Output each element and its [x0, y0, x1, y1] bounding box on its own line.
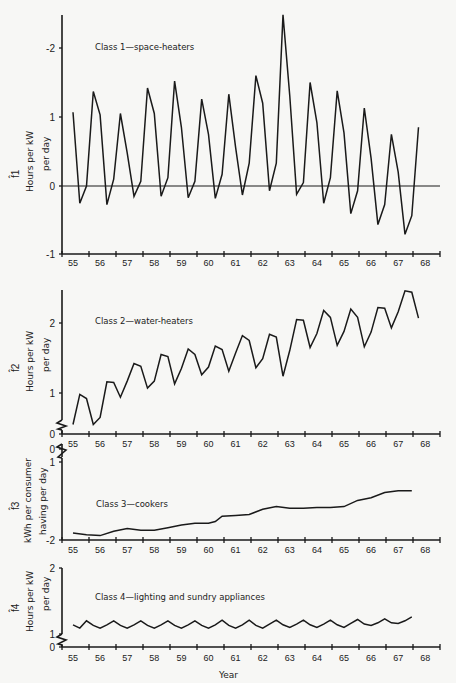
axis-break-icon — [57, 634, 66, 645]
x-tick-label: 56 — [95, 439, 105, 449]
x-tick-label: 61 — [231, 653, 241, 663]
x-tick-label: 68 — [420, 545, 430, 555]
x-tick-label: 68 — [420, 439, 430, 449]
y-tick-label: 1 — [49, 629, 55, 640]
y-symbol: f̂3 — [8, 501, 21, 510]
y-tick-label: 1 — [49, 112, 55, 123]
y-tick-label: 0 — [49, 181, 55, 192]
x-tick-label: 65 — [339, 258, 349, 268]
x-tick-label: 63 — [285, 258, 295, 268]
x-tick-label: 64 — [312, 653, 322, 663]
x-tick-label: 67 — [393, 653, 403, 663]
y-axis-title-line1: Hours per kW — [25, 131, 35, 192]
y-symbol: f̂2 — [8, 363, 21, 372]
x-tick-label: 64 — [312, 258, 322, 268]
x-tick-label: 55 — [68, 653, 78, 663]
y-tick-label: 0 — [49, 444, 55, 455]
x-tick-label: 67 — [393, 545, 403, 555]
chart-class-3: f̂3 kWh per consumer having per day Clas… — [8, 444, 440, 556]
y-tick-label: 2 — [49, 318, 55, 329]
x-tick-label: 62 — [258, 545, 268, 555]
x-tick-label: 64 — [312, 439, 322, 449]
x-tick-label: 59 — [176, 258, 186, 268]
x-tick-label: 65 — [339, 439, 349, 449]
x-tick-label: 60 — [203, 258, 213, 268]
chart-title: Class 3—cookers — [96, 499, 168, 509]
chart-title: Class 2—water-heaters — [95, 316, 194, 326]
y-tick-label: 1 — [49, 457, 55, 468]
x-tick-label: 59 — [176, 545, 186, 555]
x-tick-label: 61 — [231, 258, 241, 268]
x-tick-label: 64 — [312, 545, 322, 555]
x-tick-label: 58 — [149, 653, 159, 663]
y-axis-title-line2: having per day — [38, 467, 48, 535]
figure: f̂1 Hours per kW per day Class 1—space-h… — [0, 0, 456, 683]
y-symbol: f̂4 — [8, 603, 21, 612]
x-tick-label: 66 — [366, 439, 376, 449]
x-tick-label: 57 — [122, 545, 132, 555]
y-tick-label: 0 — [49, 642, 55, 653]
chart-class-4: f̂4 Hours per kW per day Class 4—lightin… — [8, 563, 440, 664]
x-tick-label: 55 — [68, 439, 78, 449]
y-tick-label: -2 — [46, 43, 55, 54]
x-tick-label: 68 — [420, 653, 430, 663]
x-tick-label: 65 — [339, 653, 349, 663]
x-tick-label: 58 — [149, 439, 159, 449]
y-tick-label: -2 — [46, 535, 55, 546]
x-tick-label: 61 — [231, 439, 241, 449]
y-axis-title-line2: per day — [41, 337, 51, 372]
x-tick-label: 57 — [122, 653, 132, 663]
x-tick-label: 63 — [285, 545, 295, 555]
x-axis-title: Year — [218, 670, 238, 680]
y-symbol: f̂1 — [8, 169, 21, 178]
x-tick-label: 67 — [393, 258, 403, 268]
x-tick-label: 66 — [366, 653, 376, 663]
x-tick-label: 57 — [122, 439, 132, 449]
x-tick-label: 56 — [95, 258, 105, 268]
chart-title: Class 4—lighting and sundry appliances — [95, 592, 265, 602]
data-series-line — [73, 291, 419, 425]
y-axis-title-line1: kWh per consumer — [23, 458, 33, 543]
x-tick-label: 66 — [366, 545, 376, 555]
x-tick-label: 67 — [393, 439, 403, 449]
y-tick-label: 1 — [49, 388, 55, 399]
x-tick-label: 59 — [176, 439, 186, 449]
data-series-line — [73, 617, 412, 628]
y-axis-title-line1: Hours per kW — [25, 331, 35, 392]
x-tick-label: 55 — [68, 258, 78, 268]
chart-class-1: f̂1 Hours per kW per day Class 1—space-h… — [8, 15, 440, 268]
data-series-line — [73, 491, 412, 536]
x-tick-label: 58 — [149, 545, 159, 555]
x-tick-label: 61 — [231, 545, 241, 555]
x-tick-label: 57 — [122, 258, 132, 268]
axis-break-icon — [57, 420, 66, 430]
x-tick-label: 55 — [68, 545, 78, 555]
y-axis-title-line1: Hours per kW — [25, 571, 35, 632]
y-tick-label: 2 — [49, 563, 55, 574]
x-tick-label: 62 — [258, 258, 268, 268]
x-tick-label: 56 — [95, 545, 105, 555]
y-axis-title-line2: per day — [41, 136, 51, 171]
y-tick-label: -1 — [46, 249, 55, 260]
x-tick-label: 60 — [203, 545, 213, 555]
y-axis-title-line2: per day — [41, 576, 51, 611]
x-tick-label: 56 — [95, 653, 105, 663]
x-tick-label: 60 — [203, 439, 213, 449]
x-tick-label: 62 — [258, 653, 268, 663]
x-tick-label: 58 — [149, 258, 159, 268]
x-tick-label: 60 — [203, 653, 213, 663]
chart-title: Class 1—space-heaters — [95, 42, 195, 52]
x-tick-label: 63 — [285, 439, 295, 449]
x-tick-label: 59 — [176, 653, 186, 663]
y-tick-label: 0 — [49, 429, 55, 440]
x-tick-label: 66 — [366, 258, 376, 268]
x-tick-label: 62 — [258, 439, 268, 449]
x-tick-label: 68 — [420, 258, 430, 268]
chart-class-2: f̂2 Hours per kW per day Class 2—water-h… — [8, 290, 440, 449]
x-tick-label: 65 — [339, 545, 349, 555]
x-tick-label: 63 — [285, 653, 295, 663]
